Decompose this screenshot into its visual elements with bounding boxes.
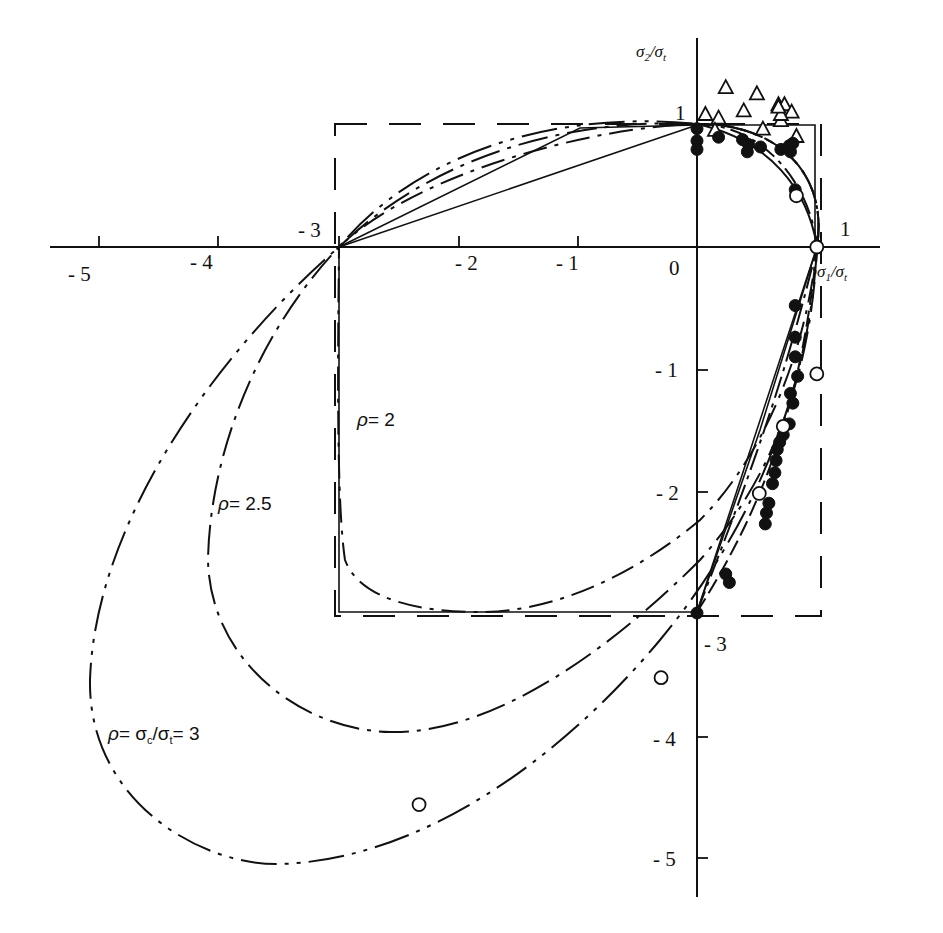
- filled-circle-marker: [691, 143, 703, 155]
- filled-circle-marker: [759, 518, 771, 530]
- filled-circle-marker: [784, 146, 796, 158]
- y-axis-title: σ2/σt: [636, 42, 667, 63]
- curve-rho-2-5: [208, 123, 819, 732]
- axes: [50, 38, 880, 897]
- triangle-marker: [712, 111, 726, 124]
- filled-circle-marker: [754, 141, 766, 153]
- x-tick-label: 0: [669, 256, 680, 280]
- filled-circle-marker: [723, 577, 735, 589]
- y-tick-label: - 5: [653, 847, 676, 871]
- x-tick-label: - 5: [68, 262, 91, 286]
- y-tick-label: - 3: [704, 632, 727, 656]
- series-open-circles: [413, 189, 824, 811]
- curve-rho-3: [90, 121, 819, 864]
- x-axis-title: σ1/σt: [817, 262, 848, 283]
- filled-circle-marker: [760, 507, 772, 519]
- triangle-marker: [698, 107, 712, 120]
- filled-circle-marker: [789, 351, 801, 363]
- filled-circle-marker: [789, 300, 801, 312]
- x-tick-label: - 4: [190, 250, 213, 274]
- filled-circle-marker: [691, 123, 703, 135]
- envelope-curves: [90, 121, 819, 864]
- x-tick-labels: - 5 - 4 - 3 - 2 - 1 0 1: [68, 217, 851, 286]
- y-tick-label: - 2: [656, 481, 679, 505]
- filled-circle-marker: [691, 607, 703, 619]
- open-circle-marker: [655, 671, 668, 684]
- x-ticks: [99, 236, 817, 247]
- x-tick-label: 1: [840, 217, 851, 241]
- reference-box: [335, 124, 821, 616]
- x-tick-label: - 1: [556, 251, 579, 275]
- filled-circle-marker: [741, 146, 753, 158]
- open-circle-marker: [753, 487, 766, 500]
- x-tick-label: - 2: [455, 251, 478, 275]
- y-tick-label: - 1: [655, 358, 678, 382]
- filled-circle-marker: [769, 467, 781, 479]
- filled-circle-marker: [787, 397, 799, 409]
- curve-rho-2: [338, 124, 818, 612]
- triangle-marker: [737, 103, 751, 116]
- y-tick-labels: 1 - 1 - 2 - 3 - 4 - 5: [653, 101, 727, 871]
- label-rho-2: ρ= 2: [356, 409, 395, 430]
- label-rho-2-5: ρ= 2.5: [217, 493, 272, 514]
- y-tick-label: - 4: [653, 727, 676, 751]
- open-circle-marker: [790, 189, 803, 202]
- filled-circle-marker: [789, 331, 801, 343]
- triangle-marker: [750, 86, 764, 99]
- label-rho-3: ρ= σc/σt= 3: [107, 723, 200, 746]
- triangle-marker: [719, 80, 733, 93]
- filled-circle-marker: [792, 370, 804, 382]
- filled-circle-marker: [713, 131, 725, 143]
- open-circle-marker: [777, 420, 790, 433]
- filled-circle-marker: [771, 444, 783, 456]
- open-circle-marker: [810, 367, 823, 380]
- filled-circle-marker: [770, 455, 782, 467]
- x-tick-label: - 3: [298, 218, 321, 242]
- filled-circle-marker: [766, 478, 778, 490]
- biaxial-failure-chart: - 5 - 4 - 3 - 2 - 1 0 1 1 - 1 - 2 - 3 - …: [0, 0, 943, 933]
- open-circle-marker: [810, 241, 823, 254]
- open-circle-marker: [413, 798, 426, 811]
